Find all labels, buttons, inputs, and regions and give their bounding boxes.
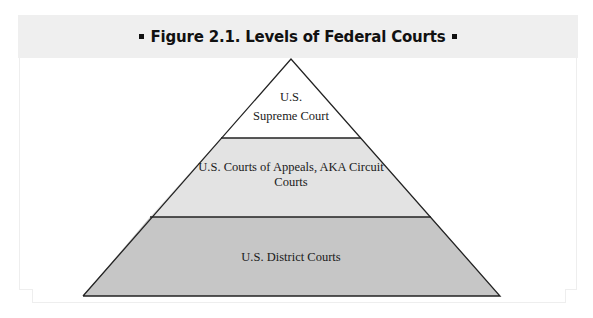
tier-middle-label-line2: Courts [170,175,412,190]
tier-top-label: U.S. Supreme Court [231,90,351,124]
tier-top-label-line1: U.S. [231,90,351,105]
court-pyramid [0,0,593,318]
tier-bottom-label: U.S. District Courts [191,250,391,265]
tier-middle-label-line1: U.S. Courts of Appeals, AKA Circuit [170,160,412,175]
tier-bottom-label-line1: U.S. District Courts [191,250,391,265]
tier-middle-label: U.S. Courts of Appeals, AKA Circuit Cour… [170,160,412,190]
tier-top-label-line2: Supreme Court [231,109,351,124]
